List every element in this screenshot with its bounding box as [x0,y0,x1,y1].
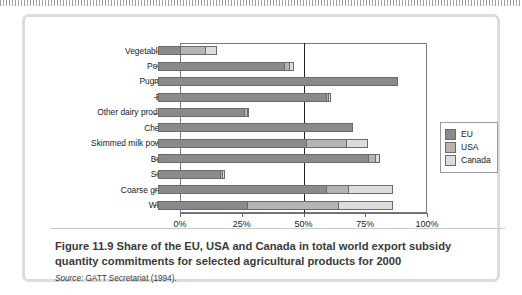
bar-row: Poultry [25,58,503,73]
bar-segment-canada [289,62,294,71]
stacked-bar[interactable] [158,170,225,179]
bar-segment-eu [158,139,306,148]
bar-segment-eu [158,93,326,102]
stacked-bar[interactable] [158,77,398,86]
figure-source: Source: GATT Secretariat (1994). [55,274,485,283]
category-label: Poultry [23,62,173,70]
stacked-bar[interactable] [158,93,331,102]
bar-row: Other dairy products [25,105,503,120]
category-label: Beef [23,93,173,101]
legend-label-eu: EU [461,130,473,139]
bar-row: Pugmeat [25,74,503,89]
bar-segment-eu [158,46,180,55]
bar-segment-canada [247,108,249,117]
legend-item-canada: Canada [445,155,491,166]
legend-item-eu: EU [445,129,491,140]
stacked-bar[interactable] [158,201,393,210]
stacked-bar[interactable] [158,139,368,148]
bar-row: Vegetable oil [25,43,503,58]
bar-row: Cheese [25,120,503,135]
bar-segment-usa [180,46,205,55]
legend-swatch-canada [445,155,456,166]
bar-segment-eu [158,201,247,210]
bar-segment-eu [158,123,353,132]
bar-segment-canada [346,139,368,148]
x-tick [180,213,181,217]
stacked-bar[interactable] [158,46,217,55]
category-label: Vegetable oil [23,47,173,55]
bar-row: Beef [25,89,503,104]
bar-segment-usa [247,201,338,210]
bar-segment-usa [326,185,348,194]
bar-segment-eu [158,77,398,86]
category-label: Butter [23,155,173,163]
source-text: GATT Secretariat (1994). [86,274,177,283]
x-tick [242,213,243,217]
stacked-bar[interactable] [158,123,353,132]
legend-swatch-usa [445,142,456,153]
stacked-bar[interactable] [158,185,393,194]
x-tick [304,213,305,217]
category-label: Skimmed milk powder [23,139,173,147]
bar-segment-eu [158,108,244,117]
figure-caption: Figure 11.9 Share of the EU, USA and Can… [55,239,485,269]
category-label: Sugar [23,170,173,178]
bar-row: Butter [25,151,503,166]
bar-segment-eu [158,154,368,163]
figure-card: Vegetable oilPoultryPugmeatBeefOther dai… [22,14,500,282]
bar-segment-usa [368,154,375,163]
category-label: Cheese [23,124,173,132]
source-label: Source: [55,274,83,283]
category-label: Other dairy products [23,108,173,116]
legend-swatch-eu [445,129,456,140]
legend-label-canada: Canada [461,156,491,165]
bar-row: Sugar [25,167,503,182]
stacked-bar[interactable] [158,62,294,71]
bar-segment-canada [338,201,392,210]
figure-page: Vegetable oilPoultryPugmeatBeefOther dai… [0,0,522,295]
legend-label-usa: USA [461,143,478,152]
bar-row: Skimmed milk powder [25,136,503,151]
bar-segment-canada [222,170,224,179]
bar-segment-canada [328,93,330,102]
bar-row: Coarse grains [25,182,503,197]
legend: EU USA Canada [440,122,498,173]
category-label: Coarse grains [23,186,173,194]
stacked-bar[interactable] [158,108,249,117]
x-tick [427,213,428,217]
bar-segment-eu [158,170,220,179]
bar-segment-canada [348,185,392,194]
caption-block: Figure 11.9 Share of the EU, USA and Can… [55,239,485,283]
caption-divider [50,228,505,229]
bar-segment-eu [158,62,284,71]
bar-segment-usa [306,139,346,148]
bar-segment-canada [205,46,217,55]
scan-edge-decoration [0,0,522,6]
x-tick [365,213,366,217]
category-label: Wheat [23,201,173,209]
bar-segment-eu [158,185,326,194]
category-label: Pugmeat [23,77,173,85]
stacked-bar[interactable] [158,154,380,163]
bar-rows: Vegetable oilPoultryPugmeatBeefOther dai… [25,43,503,213]
bar-segment-canada [375,154,380,163]
bar-row: Wheat [25,198,503,213]
legend-item-usa: USA [445,142,491,153]
